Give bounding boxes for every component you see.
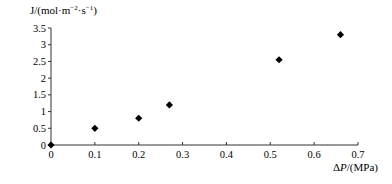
y-tick-label: 0 <box>41 140 46 151</box>
y-ticks: 00.511.522.533.5 <box>33 23 51 151</box>
y-tick-label: 2.5 <box>33 56 46 67</box>
x-tick-label: 0.7 <box>351 149 364 160</box>
x-tick-label: 0.5 <box>264 149 277 160</box>
x-tick-label: 0 <box>48 149 53 160</box>
data-point-diamond <box>166 101 173 108</box>
y-tick-label: 1 <box>41 106 46 117</box>
y-tick-label: 2 <box>41 73 46 84</box>
data-point-diamond <box>47 141 54 148</box>
x-tick-label: 0.2 <box>132 149 145 160</box>
data-point-diamond <box>135 115 142 122</box>
x-tick-label: 0.1 <box>88 149 101 160</box>
data-point-diamond <box>275 56 282 63</box>
data-point-diamond <box>337 31 344 38</box>
y-tick-label: 3.5 <box>33 23 46 34</box>
x-axis-title: ΔP/(MPa) <box>333 161 378 174</box>
x-tick-label: 0.6 <box>308 149 321 160</box>
x-tick-label: 0.4 <box>220 149 234 160</box>
y-tick-label: 1.5 <box>33 89 46 100</box>
y-axis-title: J/(mol·m−2·s−1) <box>30 4 97 17</box>
y-tick-label: 0.5 <box>33 123 46 134</box>
y-tick-label: 3 <box>41 39 46 50</box>
x-tick-label: 0.3 <box>176 149 189 160</box>
scatter-chart: 00.511.522.533.5 00.10.20.30.40.50.60.7 … <box>0 0 392 184</box>
data-points <box>47 31 344 149</box>
data-point-diamond <box>91 125 98 132</box>
